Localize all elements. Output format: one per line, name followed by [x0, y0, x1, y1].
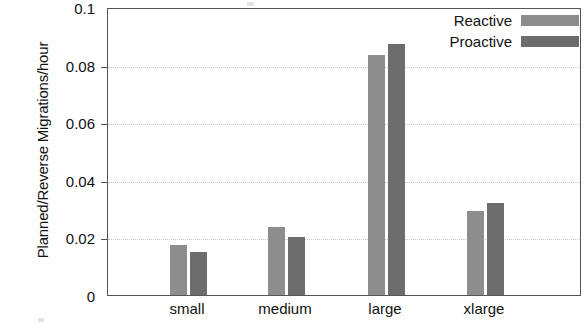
y-axis-title: Planned/Reverse Migrations/hour [34, 0, 51, 300]
y-axis-tick-label: 0 [0, 288, 95, 305]
bar-small-proactive [190, 252, 207, 295]
x-axis-tick-label-large: large [368, 300, 401, 317]
x-axis-tick-label-xlarge: xlarge [464, 300, 505, 317]
legend-swatch-proactive [521, 36, 579, 47]
scan-artifact-top [247, 2, 254, 6]
gridline [108, 124, 580, 125]
legend-item-reactive: Reactive [449, 11, 579, 30]
bar-xlarge-reactive [467, 211, 484, 295]
x-axis-tick-label-small: small [169, 300, 204, 317]
y-axis-tick-label: 0.1 [0, 0, 95, 17]
y-axis-tick-label: 0.08 [0, 57, 95, 74]
gridline [108, 239, 580, 240]
plot-area [107, 8, 581, 296]
y-axis-tick-mark [101, 124, 108, 125]
y-axis-tick-mark [101, 67, 108, 68]
legend-label-reactive: Reactive [454, 12, 512, 29]
bar-large-reactive [368, 55, 385, 295]
legend-swatch-reactive [521, 15, 579, 26]
y-axis-tick-label: 0.04 [0, 172, 95, 189]
y-axis-tick-mark [101, 239, 108, 240]
bar-small-reactive [170, 245, 187, 295]
x-axis-tick-label-medium: medium [258, 300, 311, 317]
gridline [108, 182, 580, 183]
legend-item-proactive: Proactive [449, 32, 579, 51]
bar-xlarge-proactive [487, 203, 504, 295]
legend-label-proactive: Proactive [449, 33, 512, 50]
y-axis-tick-label: 0.02 [0, 230, 95, 247]
y-axis-tick-mark [101, 182, 108, 183]
y-axis-tick-label: 0.06 [0, 115, 95, 132]
chart-legend: Reactive Proactive [449, 11, 579, 51]
bar-large-proactive [388, 44, 405, 295]
gridline [108, 67, 580, 68]
bar-medium-proactive [288, 237, 305, 295]
bar-chart-figure: Planned/Reverse Migrations/hour 00.020.0… [0, 0, 588, 324]
bar-medium-reactive [268, 227, 285, 295]
scan-artifact-bottom [38, 318, 44, 322]
